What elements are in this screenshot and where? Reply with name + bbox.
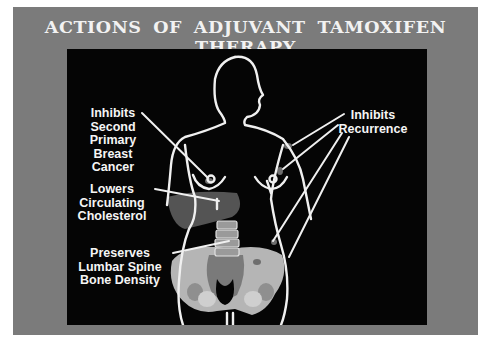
label-cholesterol: Lowers Circulating Cholesterol	[67, 183, 157, 224]
pelvis-shape	[171, 247, 285, 315]
label-bone-density: Preserves Lumbar Spine Bone Density	[67, 247, 173, 288]
leader-lines	[142, 113, 349, 257]
label-recurrence: Inhibits Recurrence	[333, 109, 413, 136]
label-second-primary: Inhibits Second Primary Breast Cancer	[73, 107, 153, 175]
diagram-panel: Inhibits Second Primary Breast Cancer Lo…	[67, 49, 427, 325]
lumbar-spine	[215, 221, 239, 256]
slide-frame: ACTIONS OF ADJUVANT TAMOXIFEN THERAPY	[13, 7, 478, 335]
